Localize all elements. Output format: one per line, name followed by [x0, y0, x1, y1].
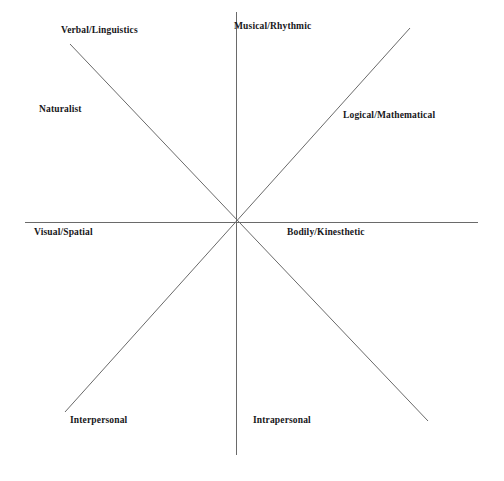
label-intrapersonal: Intrapersonal	[253, 415, 311, 425]
label-logical-mathematical: Logical/Mathematical	[343, 110, 435, 120]
diagonal-nwse-axis-line	[70, 44, 428, 421]
label-interpersonal: Interpersonal	[70, 415, 127, 425]
label-bodily-kinesthetic: Bodily/Kinesthetic	[287, 227, 365, 237]
label-musical-rhythmic: Musical/Rhythmic	[234, 21, 311, 31]
label-visual-spatial: Visual/Spatial	[34, 227, 93, 237]
diagonal-swne-axis-line	[65, 28, 410, 412]
label-verbal-linguistics: Verbal/Linguistics	[61, 25, 138, 35]
label-naturalist: Naturalist	[39, 104, 82, 114]
axes-group	[0, 0, 504, 481]
multiple-intelligences-diagram: Verbal/Linguistics Musical/Rhythmic Natu…	[0, 0, 504, 481]
